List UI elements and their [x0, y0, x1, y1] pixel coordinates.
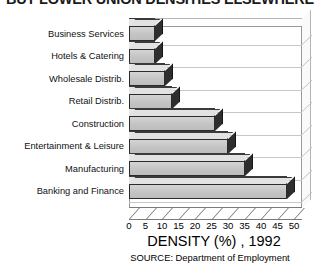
category-label: Manufacturing: [0, 164, 124, 174]
source-note: SOURCE: Department of Employment: [100, 252, 320, 263]
bar-top-face: [129, 86, 172, 94]
x-axis-ticks: [129, 208, 310, 219]
category-label: Banking and Finance: [0, 186, 124, 196]
gridline: [129, 202, 302, 203]
chart-figure: BUT LOWER UNION DENSITIES ELSEWHERE Busi…: [0, 0, 320, 276]
bar-top-face: [129, 18, 155, 26]
bar: [129, 184, 287, 199]
bar-front-face: [129, 184, 287, 199]
bar: [129, 94, 172, 109]
bar-front-face: [129, 26, 155, 41]
bar-front-face: [129, 94, 172, 109]
category-label: Wholesale Distrib.: [0, 74, 124, 84]
category-axis: Business ServicesHotels & CateringWholes…: [0, 18, 126, 206]
bar-top-face: [129, 63, 165, 71]
x-tick: [162, 208, 173, 219]
bar: [129, 71, 165, 86]
bar-front-face: [129, 139, 228, 154]
x-tick: [278, 208, 289, 219]
x-tick: [245, 208, 256, 219]
bar-front-face: [129, 116, 215, 131]
category-label: Retail Distrib.: [0, 96, 124, 106]
x-tick: [228, 208, 239, 219]
category-label: Entertainment & Leisure: [0, 141, 124, 151]
bar: [129, 26, 155, 41]
bar-front-face: [129, 161, 245, 176]
x-axis-title: DENSITY (%) , 1992: [108, 233, 320, 249]
bar: [129, 49, 155, 64]
bar-top-face: [129, 131, 228, 139]
x-tick: [129, 208, 140, 219]
x-tick: [195, 208, 206, 219]
category-label: Hotels & Catering: [0, 51, 124, 61]
bar-top-face: [129, 108, 215, 116]
x-tick: [146, 208, 157, 219]
bar: [129, 139, 228, 154]
x-tick: [294, 208, 305, 219]
bar: [129, 161, 245, 176]
x-tick-label: 50: [284, 220, 304, 231]
x-tick: [261, 208, 272, 219]
bar-front-face: [129, 49, 155, 64]
x-tick: [179, 208, 190, 219]
bar-front-face: [129, 71, 165, 86]
category-label: Business Services: [0, 29, 124, 39]
x-tick: [212, 208, 223, 219]
bar-top-face: [129, 153, 245, 161]
bar-top-face: [129, 176, 287, 184]
bar-top-face: [129, 41, 155, 49]
category-label: Construction: [0, 119, 124, 129]
bar: [129, 116, 215, 131]
chart-title: BUT LOWER UNION DENSITIES ELSEWHERE: [0, 0, 320, 7]
plot-right-face: [302, 18, 310, 208]
